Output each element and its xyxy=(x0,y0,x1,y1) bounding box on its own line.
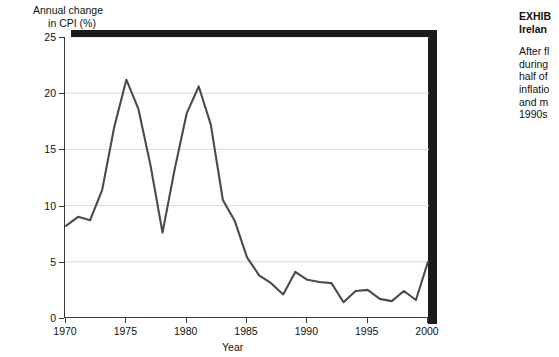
exhibit-body-text: After flduring half of inflatioand m1990… xyxy=(519,45,559,121)
x-tick-mark xyxy=(367,318,368,323)
gridlines xyxy=(65,37,429,262)
y-tick-mark xyxy=(59,37,64,38)
x-tick-label: 1970 xyxy=(45,325,85,337)
x-tick-mark xyxy=(65,318,66,323)
caption-line: and m xyxy=(519,96,559,109)
x-tick-mark xyxy=(306,318,307,323)
plot-svg-holder xyxy=(65,37,428,317)
y-tick-label: 15 xyxy=(30,143,56,155)
x-axis-title: Year xyxy=(222,341,243,353)
x-tick-mark xyxy=(427,318,428,323)
chart-shadow-right xyxy=(428,30,437,324)
x-tick-label: 1995 xyxy=(347,325,387,337)
y-axis-title: Annual change in CPI (%) xyxy=(14,4,122,29)
exhibit-label: EXHIB xyxy=(519,10,559,23)
x-tick-mark xyxy=(246,318,247,323)
y-axis-title-line2: in CPI (%) xyxy=(14,17,122,30)
y-tick-label: 25 xyxy=(30,31,56,43)
y-axis-title-line1: Annual change xyxy=(14,4,122,17)
y-tick-label: 20 xyxy=(30,87,56,99)
y-tick-label: 5 xyxy=(30,256,56,268)
y-tick-mark xyxy=(59,262,64,263)
y-tick-mark xyxy=(59,93,64,94)
x-tick-label: 1985 xyxy=(226,325,266,337)
caption-line: 1990s xyxy=(519,108,559,121)
x-tick-label: 1975 xyxy=(105,325,145,337)
cpi-series-line xyxy=(66,80,428,303)
exhibit-subtitle: Irelan xyxy=(519,23,559,36)
plot-area xyxy=(64,37,428,318)
y-tick-mark xyxy=(59,318,64,319)
x-tick-label: 1990 xyxy=(286,325,326,337)
exhibit-caption: EXHIB Irelan After flduring half of infl… xyxy=(519,10,559,121)
cpi-line-chart xyxy=(65,37,429,318)
y-tick-label: 0 xyxy=(30,312,56,324)
x-tick-label: 2000 xyxy=(407,325,447,337)
x-tick-label: 1980 xyxy=(166,325,206,337)
exhibit-page: Annual change in CPI (%) 0510152025 1970… xyxy=(0,0,559,357)
y-tick-mark xyxy=(59,149,64,150)
caption-line: After fl xyxy=(519,45,559,58)
x-tick-mark xyxy=(125,318,126,323)
x-tick-mark xyxy=(186,318,187,323)
y-tick-label: 10 xyxy=(30,200,56,212)
caption-line: during xyxy=(519,58,559,71)
caption-line: inflatio xyxy=(519,83,559,96)
y-tick-mark xyxy=(59,206,64,207)
caption-line: half of xyxy=(519,70,559,83)
chart-container xyxy=(64,30,437,324)
